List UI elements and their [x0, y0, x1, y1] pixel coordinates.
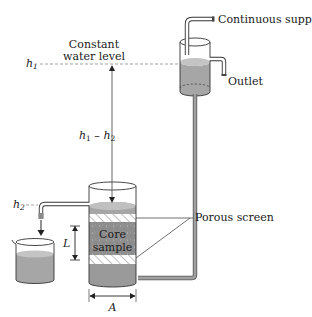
constant-level-label-line2: water level	[63, 50, 125, 63]
length-label: L	[62, 237, 70, 250]
continuous-supply-label: Continuous supply	[218, 13, 312, 26]
length-dimension	[70, 226, 80, 260]
permeameter-diagram: Continuous supply Outlet Constant water …	[0, 0, 312, 317]
core-sample-label-line1: Core	[99, 228, 126, 241]
constant-head-tank	[180, 38, 210, 96]
outlet-pipe	[209, 59, 227, 76]
area-label: A	[108, 301, 117, 314]
porous-screen-label: Porous screen	[195, 211, 274, 224]
core-sample-label-line2: sample	[93, 241, 133, 254]
h1-label: h1	[26, 57, 38, 71]
h2-label: h2	[13, 198, 25, 212]
drip-arrow	[38, 220, 45, 236]
head-difference-label: h1 – h2	[79, 129, 115, 143]
outflow-pipe	[39, 204, 91, 219]
collection-beaker	[12, 239, 54, 284]
outlet-label: Outlet	[228, 75, 264, 88]
porous-screen-leaders	[136, 218, 193, 258]
